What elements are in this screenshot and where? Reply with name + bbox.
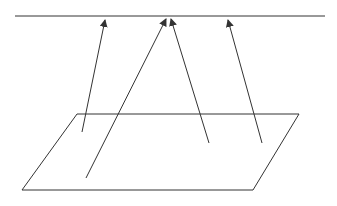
- arrow-group: [82, 19, 262, 178]
- arrow-4: [228, 20, 262, 143]
- arrow-2: [86, 19, 166, 178]
- arrow-3: [171, 19, 209, 143]
- diagram-canvas: [0, 0, 337, 206]
- arrow-1: [82, 20, 105, 132]
